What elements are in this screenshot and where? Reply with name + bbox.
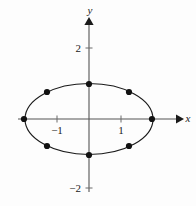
x-tick-label-1: 1 <box>118 124 124 136</box>
x-axis-arrow-icon <box>176 114 184 123</box>
data-point <box>126 143 132 149</box>
x-tick-label-neg1: −1 <box>51 124 63 136</box>
x-axis-label: x <box>185 112 191 124</box>
data-point <box>86 152 92 158</box>
math-figure-ellipse: −1 1 2 −2 x y <box>0 0 196 206</box>
y-axis-label: y <box>87 4 93 16</box>
y-tick-label-neg2: −2 <box>69 182 81 194</box>
data-point <box>44 89 50 95</box>
data-point <box>126 89 132 95</box>
y-tick-label-2: 2 <box>76 42 82 54</box>
data-point <box>86 81 92 87</box>
data-point <box>21 116 27 122</box>
y-axis-arrow-icon <box>84 17 93 25</box>
coordinate-plot: −1 1 2 −2 x y <box>0 0 196 206</box>
data-point <box>44 143 50 149</box>
data-point <box>149 116 155 122</box>
